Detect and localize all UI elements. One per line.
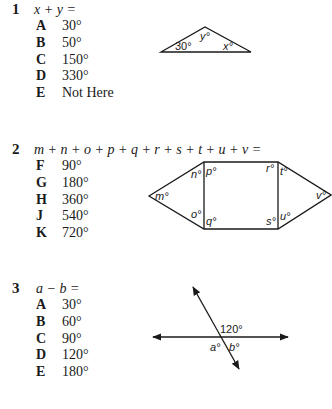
figures-canvas: 30° y° x° m° n° o° p° q° r° s° t° u° v° … [0, 0, 332, 409]
angle-label-120: 120° [220, 323, 243, 335]
angle-label-x: x° [222, 40, 234, 52]
angle-label-q: q° [206, 215, 217, 227]
angle-label-o: o° [191, 208, 202, 220]
angle-label-r: r° [266, 162, 275, 174]
hexagon-figure: m° n° o° p° q° r° s° t° u° v° [149, 162, 331, 229]
angle-label-m: m° [155, 190, 169, 202]
angle-label-30: 30° [175, 40, 192, 52]
angle-label-s: s° [266, 215, 277, 227]
angle-label-a: a° [210, 341, 221, 353]
triangle-figure: 30° y° x° [161, 27, 251, 52]
angle-label-y: y° [199, 30, 211, 42]
angle-label-u: u° [280, 210, 291, 222]
angle-label-n: n° [191, 168, 202, 180]
intersecting-lines-figure: 120° a° b° [153, 287, 288, 369]
angle-label-b: b° [229, 341, 240, 353]
angle-label-t: t° [280, 165, 288, 177]
angle-label-v: v° [316, 189, 327, 201]
angle-label-p: p° [205, 165, 217, 177]
